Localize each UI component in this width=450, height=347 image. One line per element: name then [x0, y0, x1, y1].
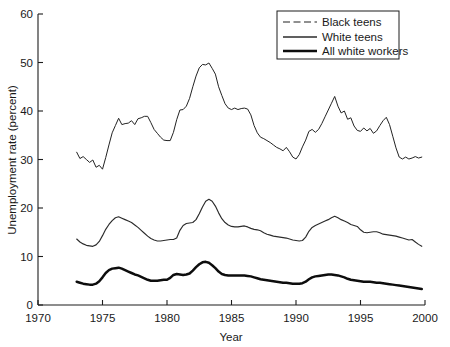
x-axis-title: Year — [219, 331, 242, 343]
y-tick-label: 60 — [20, 8, 33, 20]
y-tick-label: 50 — [20, 57, 33, 69]
legend-label-all-white-workers: All white workers — [322, 45, 409, 57]
y-tick-label: 10 — [20, 251, 33, 263]
x-tick-label: 2000 — [412, 312, 438, 324]
legend-label-black-teens: Black teens — [322, 16, 382, 28]
chart-plot-area: 0102030405060 19701975198019851990199520… — [0, 0, 450, 347]
series-line-all-white-workers — [77, 262, 422, 289]
y-tick-label: 30 — [20, 154, 33, 166]
legend-label-white-teens: White teens — [322, 31, 383, 43]
x-tick-label: 1980 — [154, 312, 180, 324]
x-tick-label: 1995 — [348, 312, 374, 324]
y-tick-label: 0 — [27, 299, 33, 311]
x-tick-label: 1990 — [283, 312, 309, 324]
series-line-black-teens — [77, 63, 422, 169]
x-tick-label: 1970 — [25, 312, 51, 324]
y-tick-label: 20 — [20, 202, 33, 214]
y-axis-title: Unemployment rate (percent) — [6, 85, 18, 235]
series-line-white-teens — [77, 199, 422, 246]
unemployment-rate-chart: 0102030405060 19701975198019851990199520… — [0, 0, 450, 347]
chart-legend: Black teens White teens All white worker… — [277, 11, 409, 59]
x-tick-label: 1975 — [90, 312, 116, 324]
x-tick-label: 1985 — [219, 312, 245, 324]
y-axis-ticks: 0102030405060 — [20, 8, 43, 311]
data-series-group — [77, 63, 422, 289]
x-axis-ticks: 1970197519801985199019952000 — [25, 300, 438, 324]
y-tick-label: 40 — [20, 105, 33, 117]
